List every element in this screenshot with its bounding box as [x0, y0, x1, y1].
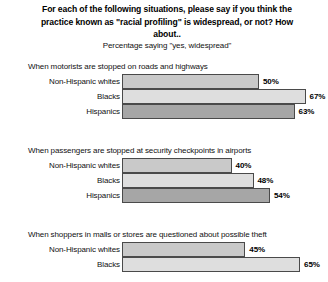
bar-track: 67%	[122, 89, 328, 104]
bar-row-label: Hispanics	[86, 106, 120, 117]
bar-value-label: 67%	[310, 91, 326, 102]
bar	[122, 74, 259, 89]
bar-value-label: 50%	[263, 76, 279, 87]
bar-row: Non-Hispanic whites45%	[0, 242, 328, 257]
group-rows: Non-Hispanic whites40%Blacks48%Hispanics…	[0, 158, 328, 203]
bar-track: 48%	[122, 173, 328, 188]
group-heading: When passengers are stopped at security …	[28, 146, 251, 156]
group-heading: When motorists are stopped on roads and …	[28, 62, 208, 72]
bar-track: 65%	[122, 257, 328, 272]
group-rows: Non-Hispanic whites50%Blacks67%Hispanics…	[0, 74, 328, 119]
bar-track: 40%	[122, 158, 328, 173]
bar-value-label: 54%	[274, 190, 290, 201]
bar-row-label: Non-Hispanic whites	[49, 244, 120, 255]
bar	[122, 158, 232, 173]
bar-row-label: Non-Hispanic whites	[49, 160, 120, 171]
bar-track: 54%	[122, 188, 328, 203]
chart-headline: For each of the following situations, pl…	[28, 3, 306, 41]
bar-row: Non-Hispanic whites40%	[0, 158, 328, 173]
bar-row: Blacks48%	[0, 173, 328, 188]
bar	[122, 173, 254, 188]
group-heading: When shoppers in malls or stores are que…	[28, 230, 267, 240]
bar	[122, 257, 300, 272]
bar-value-label: 40%	[236, 160, 252, 171]
bar-row: Hispanics63%	[0, 104, 328, 119]
chart-subtitle: Percentage saying "yes, widespread"	[28, 40, 306, 51]
bar	[122, 188, 270, 203]
bar	[122, 242, 245, 257]
bar-row-label: Non-Hispanic whites	[49, 76, 120, 87]
bar-value-label: 48%	[258, 175, 274, 186]
bar-row-label: Blacks	[97, 259, 120, 270]
bar-track: 50%	[122, 74, 328, 89]
bar-track: 63%	[122, 104, 328, 119]
bar-row: Hispanics54%	[0, 188, 328, 203]
bar-row: Non-Hispanic whites50%	[0, 74, 328, 89]
bar-value-label: 65%	[304, 259, 320, 270]
bar-row-label: Hispanics	[86, 190, 120, 201]
bar-row: Blacks67%	[0, 89, 328, 104]
bar-row-label: Blacks	[97, 175, 120, 186]
bar-value-label: 45%	[249, 244, 265, 255]
bar-value-label: 63%	[299, 106, 315, 117]
bar	[122, 104, 295, 119]
bar	[122, 89, 306, 104]
group-rows: Non-Hispanic whites45%Blacks65%	[0, 242, 328, 272]
bar-row-label: Blacks	[97, 91, 120, 102]
bar-track: 45%	[122, 242, 328, 257]
bar-row: Blacks65%	[0, 257, 328, 272]
